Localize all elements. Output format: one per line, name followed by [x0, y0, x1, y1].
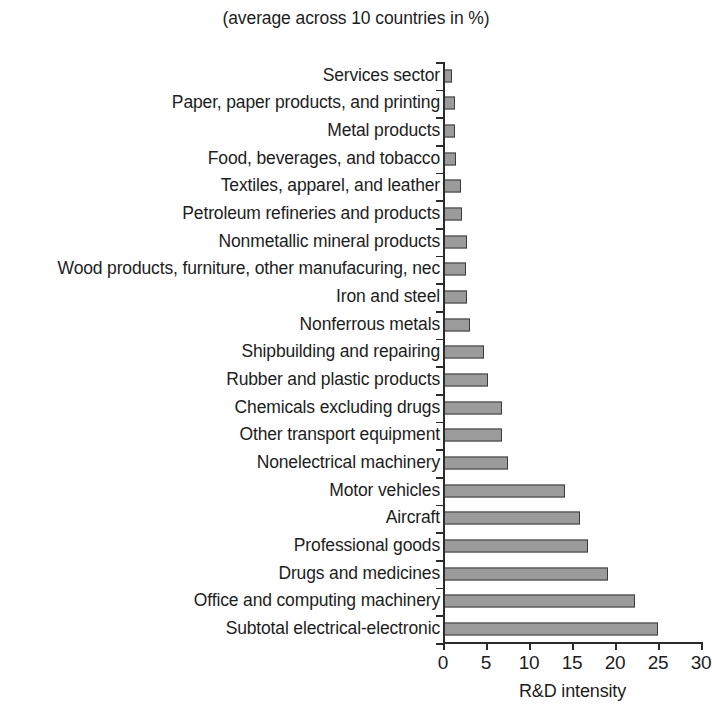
y-axis-tick [436, 588, 443, 590]
y-axis-tick [436, 449, 443, 451]
bar [443, 512, 580, 525]
chart-row: Shipbuilding and repairing [0, 339, 712, 367]
chart-row: Professional goods [0, 532, 712, 560]
category-label: Drugs and medicines [278, 565, 440, 583]
chart-title: (average across 10 countries in %) [0, 8, 712, 29]
category-label: Paper, paper products, and printing [172, 95, 440, 113]
bar [443, 623, 658, 636]
chart-row: Motor vehicles [0, 477, 712, 505]
category-label: Motor vehicles [329, 482, 440, 500]
y-axis-tick [436, 256, 443, 258]
bar [443, 457, 508, 470]
y-axis-tick [436, 200, 443, 202]
x-axis-tick [658, 642, 660, 650]
y-axis-tick [436, 532, 443, 534]
category-label: Metal products [327, 122, 440, 140]
category-label: Iron and steel [336, 288, 440, 306]
plot-area: Services sectorPaper, paper products, an… [0, 62, 712, 642]
bar [443, 180, 461, 193]
bar [443, 374, 488, 387]
x-axis-tick [572, 642, 574, 650]
category-label: Food, beverages, and tobacco [208, 150, 440, 168]
category-label: Services sector [323, 67, 440, 85]
category-label: Nonelectrical machinery [257, 454, 440, 472]
chart-row: Petroleum refineries and products [0, 200, 712, 228]
bar [443, 401, 502, 414]
y-axis-tick [436, 505, 443, 507]
x-axis-tick [443, 642, 445, 650]
y-axis-tick [436, 117, 443, 119]
x-axis-tick-label: 20 [595, 652, 635, 674]
rd-intensity-bar-chart: (average across 10 countries in %) Servi… [0, 0, 712, 708]
bar [443, 263, 466, 276]
chart-row: Textiles, apparel, and leather [0, 173, 712, 201]
x-axis-tick [486, 642, 488, 650]
x-axis-tick [529, 642, 531, 650]
y-axis-tick [436, 311, 443, 313]
category-label: Aircraft [386, 510, 440, 528]
category-label: Other transport equipment [239, 427, 440, 445]
chart-row: Food, beverages, and tobacco [0, 145, 712, 173]
y-axis-tick [436, 339, 443, 341]
category-label: Textiles, apparel, and leather [221, 178, 440, 196]
bar [443, 97, 455, 110]
bar [443, 484, 565, 497]
chart-row: Drugs and medicines [0, 560, 712, 588]
y-axis-tick [436, 422, 443, 424]
y-axis-tick [436, 366, 443, 368]
y-axis-tick [436, 477, 443, 479]
bar [443, 318, 470, 331]
category-label: Rubber and plastic products [226, 371, 440, 389]
x-axis-tick [615, 642, 617, 650]
bar [443, 429, 502, 442]
bar [443, 125, 455, 138]
y-axis-tick [436, 173, 443, 175]
x-axis-title: R&D intensity [443, 681, 702, 702]
bar [443, 208, 462, 221]
y-axis-tick [436, 228, 443, 230]
bar [443, 346, 484, 359]
chart-row: Rubber and plastic products [0, 366, 712, 394]
y-axis-tick [436, 560, 443, 562]
category-label: Professional goods [294, 537, 440, 555]
y-axis-line [443, 62, 445, 643]
chart-row: Paper, paper products, and printing [0, 90, 712, 118]
x-axis-tick-label: 30 [681, 652, 712, 674]
y-axis-tick [436, 283, 443, 285]
x-axis-tick-label: 15 [552, 652, 592, 674]
category-label: Office and computing machinery [194, 593, 440, 611]
bar [443, 152, 456, 165]
y-axis-tick [436, 394, 443, 396]
x-axis-tick-label: 25 [638, 652, 678, 674]
chart-row: Wood products, furniture, other manufacu… [0, 256, 712, 284]
chart-row: Office and computing machinery [0, 588, 712, 616]
category-label: Chemicals excluding drugs [235, 399, 440, 417]
x-axis-tick-label: 0 [423, 652, 463, 674]
x-axis-tick [701, 642, 703, 650]
chart-row: Aircraft [0, 505, 712, 533]
y-axis-tick [436, 615, 443, 617]
chart-row: Services sector [0, 62, 712, 90]
bar [443, 595, 635, 608]
bar [443, 235, 467, 248]
chart-row: Metal products [0, 117, 712, 145]
chart-row: Nonelectrical machinery [0, 449, 712, 477]
category-label: Subtotal electrical-electronic [226, 620, 440, 638]
category-label: Nonmetallic mineral products [219, 233, 440, 251]
x-axis-tick-label: 10 [509, 652, 549, 674]
y-axis-tick [436, 90, 443, 92]
category-label: Petroleum refineries and products [182, 205, 440, 223]
category-label: Wood products, furniture, other manufacu… [58, 261, 440, 279]
bar [443, 567, 608, 580]
bar [443, 540, 588, 553]
y-axis-tick [436, 145, 443, 147]
chart-row: Nonmetallic mineral products [0, 228, 712, 256]
chart-row: Iron and steel [0, 283, 712, 311]
x-axis-tick-label: 5 [466, 652, 506, 674]
category-label: Shipbuilding and repairing [242, 344, 440, 362]
bar [443, 291, 467, 304]
chart-row: Subtotal electrical-electronic [0, 615, 712, 643]
chart-row: Chemicals excluding drugs [0, 394, 712, 422]
chart-row: Other transport equipment [0, 422, 712, 450]
y-axis-tick [436, 643, 443, 645]
